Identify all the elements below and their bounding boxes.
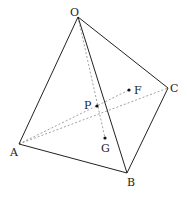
point-F <box>127 88 130 91</box>
label-P: P <box>84 99 92 112</box>
diagram-svg: O A B C F P G <box>0 0 187 197</box>
tetrahedron-diagram: O A B C F P G <box>0 0 187 197</box>
point-G <box>103 136 106 139</box>
label-G: G <box>101 142 110 155</box>
label-B: B <box>127 176 135 189</box>
edge-BC <box>127 88 168 173</box>
edge-AB <box>19 144 127 173</box>
label-O: O <box>70 6 79 19</box>
point-P <box>95 104 98 107</box>
label-C: C <box>170 82 178 95</box>
segment-AF-dashed <box>19 90 129 144</box>
label-F: F <box>134 84 142 97</box>
label-A: A <box>9 146 19 159</box>
